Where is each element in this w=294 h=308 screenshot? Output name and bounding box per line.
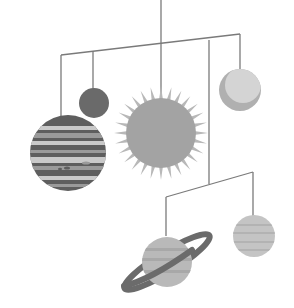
sun-ray xyxy=(114,131,128,135)
sun-ray xyxy=(159,86,163,100)
light-planet-highlight xyxy=(225,67,261,103)
small-dark-planet xyxy=(79,88,109,118)
planet-band xyxy=(140,258,200,261)
planet-band xyxy=(230,241,280,243)
planet-band xyxy=(230,249,280,251)
sun-ray xyxy=(194,131,208,135)
planet-band xyxy=(28,133,108,138)
banded-planet xyxy=(28,113,108,193)
striped-planet xyxy=(230,215,280,257)
planet-band xyxy=(28,150,108,153)
planet-spot xyxy=(58,168,62,170)
light-planet xyxy=(219,67,261,111)
planet-spot xyxy=(64,166,70,169)
solar-mobile-illustration xyxy=(0,0,294,308)
planet-spot xyxy=(82,162,90,165)
upper-crossbar xyxy=(61,34,240,55)
ringed-planet xyxy=(119,227,214,297)
planet-band xyxy=(28,141,108,145)
sun xyxy=(114,86,208,180)
planet-band xyxy=(140,270,200,273)
sun-ray xyxy=(159,166,163,180)
planet-band xyxy=(230,224,280,226)
sun-body xyxy=(126,98,196,168)
planet-band xyxy=(28,176,108,180)
planet-band xyxy=(28,126,108,130)
planet-band xyxy=(28,157,108,163)
planet-band xyxy=(28,184,108,187)
planet-band xyxy=(230,232,280,234)
